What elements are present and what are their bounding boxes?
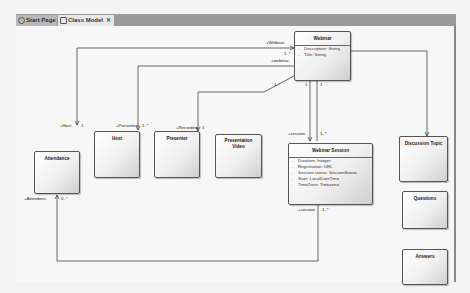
class-discussion-topic[interactable]: Discussion Topic	[399, 136, 448, 182]
class-webinar[interactable]: Webinar -Description: String -Title: Str…	[294, 31, 351, 81]
class-presentation-video[interactable]: Presentation Video	[215, 134, 262, 178]
multiplicity-label: 1	[81, 123, 83, 128]
class-attendance[interactable]: Attendance	[34, 151, 80, 194]
class-host[interactable]: Host	[94, 131, 140, 178]
class-webinar-session[interactable]: Webinar Session -Duration: Integer -Regi…	[288, 143, 373, 205]
class-name: Webinar Session	[289, 144, 372, 154]
attribute: -Title: String	[295, 52, 350, 58]
tab-label: Start Page	[26, 17, 56, 23]
multiplicity-label: 1..*	[320, 131, 326, 136]
tab-bar: Start Page Class Model ✕	[16, 14, 456, 26]
role-label: +Host	[60, 123, 71, 128]
class-name: Presentation Video	[216, 135, 261, 150]
class-answers[interactable]: Answers	[402, 249, 448, 285]
multiplicity-label: 1..*	[142, 123, 148, 128]
multiplicity-label: 0..*	[61, 196, 67, 201]
class-presenter[interactable]: Presenter	[154, 131, 200, 178]
attribute: -TimeZone: Timezone	[289, 182, 372, 188]
role-label: +session	[288, 131, 305, 136]
multiplicity-label: 1..*	[322, 207, 328, 212]
role-label: +Attendees	[24, 196, 46, 201]
class-name: Presenter	[155, 132, 199, 142]
class-model-window: Start Page Class Model ✕	[16, 14, 456, 282]
diagram-canvas[interactable]: Webinar -Description: String -Title: Str…	[16, 26, 456, 282]
class-questions[interactable]: Questions	[402, 191, 448, 229]
multiplicity-label: 1	[305, 82, 307, 87]
role-label: +Recording	[176, 125, 198, 130]
class-name: Answers	[403, 250, 447, 260]
multiplicity-label: 1	[202, 125, 204, 130]
role-label: +Webinar	[266, 40, 284, 45]
start-page-icon	[18, 17, 25, 24]
class-name: Host	[95, 132, 139, 142]
multiplicity-label: 1	[320, 82, 322, 87]
close-icon[interactable]: ✕	[106, 15, 111, 26]
multiplicity-label: 1..*	[284, 51, 290, 56]
tab-class-model[interactable]: Class Model ✕	[58, 15, 114, 26]
tab-label: Class Model	[68, 17, 103, 23]
role-label: +Presenters	[116, 123, 139, 128]
class-model-icon	[60, 17, 67, 24]
class-name: Attendance	[35, 152, 79, 162]
multiplicity-label: 1..*	[274, 82, 280, 87]
class-name: Questions	[403, 192, 447, 202]
class-name: Discussion Topic	[400, 137, 447, 147]
role-label: +session	[298, 207, 315, 212]
role-label: +webinar	[271, 58, 289, 63]
class-name: Webinar	[295, 32, 350, 42]
tab-start-page[interactable]: Start Page	[16, 15, 57, 26]
